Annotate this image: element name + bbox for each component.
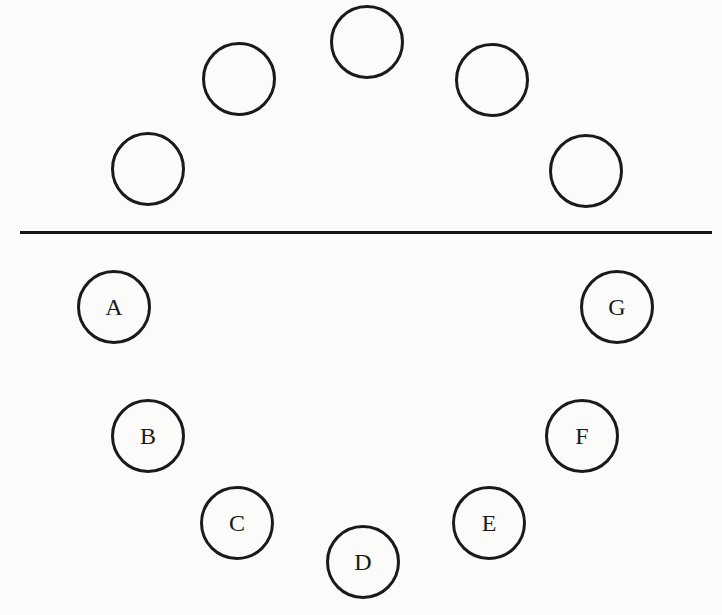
circle-label: E [482,511,497,535]
circle-label: G [608,295,625,319]
circle-f: F [545,399,619,473]
circle-b: B [111,399,185,473]
top-circle-3 [330,5,404,79]
diagram-canvas: A B C D E F G [0,0,722,615]
circle-g: G [580,270,654,344]
top-circle-1 [111,132,185,206]
horizontal-divider-line [20,231,712,234]
circle-e: E [452,486,526,560]
circle-label: C [229,511,245,535]
circle-label: D [354,550,371,574]
top-circle-2 [202,42,276,116]
circle-label: B [140,424,156,448]
top-circle-5 [549,134,623,208]
circle-label: A [105,295,122,319]
circle-c: C [200,486,274,560]
top-circle-4 [455,43,529,117]
circle-label: F [575,424,588,448]
circle-a: A [77,270,151,344]
circle-d: D [326,525,400,599]
